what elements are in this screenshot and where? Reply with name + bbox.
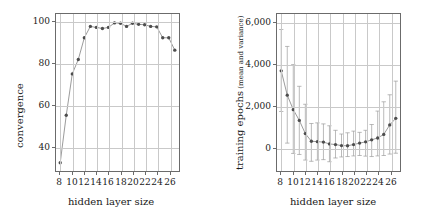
gridline-vertical: [146, 14, 147, 171]
x-tick-label: 20: [348, 177, 359, 187]
figure-two-panel-plot: 8101214161820222426406080100 hidden laye…: [0, 0, 444, 224]
error-bars: [279, 29, 398, 161]
gridline-vertical: [134, 14, 135, 171]
x-tick-mark: [293, 172, 294, 175]
gridline-vertical: [122, 14, 123, 171]
data-point-marker: [77, 58, 80, 61]
x-tick-label: 12: [78, 177, 89, 187]
x-tick-mark: [133, 172, 134, 175]
data-point-marker: [394, 117, 397, 120]
gridline-horizontal: [56, 22, 179, 23]
y-tick-mark: [273, 148, 276, 149]
gridline-vertical: [97, 14, 98, 171]
x-tick-label: 16: [102, 177, 113, 187]
data-point-marker: [89, 25, 92, 28]
data-point-marker: [310, 140, 313, 143]
training-epochs-series-layer: [277, 14, 400, 171]
data-point-marker: [149, 25, 152, 28]
data-point-marker: [173, 48, 176, 51]
gridline-vertical: [109, 14, 110, 171]
x-tick-label: 8: [277, 177, 283, 187]
y-tick-mark: [52, 105, 55, 106]
x-tick-label: 24: [151, 177, 162, 187]
x-tick-mark: [59, 172, 60, 175]
x-axis-title-left: hidden layer size: [0, 196, 222, 207]
x-tick-label: 22: [139, 177, 150, 187]
data-point-marker: [322, 140, 325, 143]
x-tick-mark: [96, 172, 97, 175]
data-point-marker: [167, 36, 170, 39]
gridline-horizontal: [277, 149, 400, 150]
gridline-horizontal: [56, 106, 179, 107]
data-point-marker: [382, 133, 385, 136]
x-tick-mark: [317, 172, 318, 175]
x-tick-label: 14: [311, 177, 322, 187]
x-tick-mark: [72, 172, 73, 175]
x-tick-label: 10: [287, 177, 298, 187]
data-point-marker: [286, 94, 289, 97]
gridline-vertical: [306, 14, 307, 171]
data-point-marker: [137, 23, 140, 26]
data-point-marker: [370, 138, 373, 141]
x-tick-label: 20: [127, 177, 138, 187]
x-tick-mark: [305, 172, 306, 175]
x-tick-mark: [121, 172, 122, 175]
plot-area-convergence: [55, 13, 180, 172]
gridline-vertical: [158, 14, 159, 171]
gridline-vertical: [379, 14, 380, 171]
y-axis-title-right: training epochs (mean and variance): [234, 16, 245, 170]
y-axis-title-right-main: training epochs: [234, 91, 245, 170]
x-tick-mark: [280, 172, 281, 175]
y-tick-mark: [273, 22, 276, 23]
data-point-marker: [298, 119, 301, 122]
gridline-vertical: [392, 14, 393, 171]
y-tick-mark: [52, 147, 55, 148]
x-tick-mark: [108, 172, 109, 175]
data-point-marker: [388, 123, 391, 126]
x-tick-mark: [84, 172, 85, 175]
x-tick-label: 18: [336, 177, 347, 187]
data-point-marker: [346, 144, 349, 147]
x-tick-mark: [354, 172, 355, 175]
gridline-horizontal: [277, 65, 400, 66]
gridline-horizontal: [56, 64, 179, 65]
gridline-vertical: [330, 14, 331, 171]
x-tick-label: 22: [360, 177, 371, 187]
x-tick-mark: [391, 172, 392, 175]
x-tick-label: 10: [66, 177, 77, 187]
gridline-vertical: [85, 14, 86, 171]
gridline-vertical: [367, 14, 368, 171]
gridline-horizontal: [277, 107, 400, 108]
x-tick-label: 18: [115, 177, 126, 187]
x-tick-mark: [157, 172, 158, 175]
x-tick-label: 26: [385, 177, 396, 187]
x-tick-mark: [145, 172, 146, 175]
gridline-vertical: [281, 14, 282, 171]
y-axis-title-right-sub: (mean and variance): [237, 16, 245, 91]
gridline-vertical: [355, 14, 356, 171]
x-tick-label: 12: [299, 177, 310, 187]
x-tick-label: 24: [372, 177, 383, 187]
x-tick-mark: [378, 172, 379, 175]
y-tick-mark: [273, 106, 276, 107]
y-axis-title-left: convergence: [14, 83, 25, 148]
x-tick-mark: [329, 172, 330, 175]
gridline-horizontal: [56, 148, 179, 149]
gridline-vertical: [171, 14, 172, 171]
x-axis-title-right: hidden layer size: [222, 196, 444, 207]
data-point-marker: [101, 27, 104, 30]
data-point-marker: [334, 143, 337, 146]
data-point-marker: [125, 25, 128, 28]
x-tick-label: 8: [56, 177, 62, 187]
data-point-marker: [358, 141, 361, 144]
data-point-marker: [161, 36, 164, 39]
x-tick-mark: [170, 172, 171, 175]
x-tick-label: 26: [164, 177, 175, 187]
x-tick-mark: [342, 172, 343, 175]
plot-area-training-epochs: [276, 13, 401, 172]
panel-training-epochs: 810121416182022242602,0004,0006,000 hidd…: [222, 0, 444, 224]
gridline-vertical: [73, 14, 74, 171]
x-tick-mark: [366, 172, 367, 175]
y-tick-mark: [273, 64, 276, 65]
gridline-vertical: [294, 14, 295, 171]
